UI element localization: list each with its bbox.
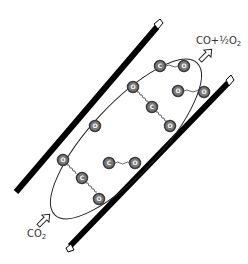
atom-oxygen: O: [128, 82, 139, 93]
atom-oxygen: O: [173, 86, 184, 97]
atom-oxygen: O: [94, 194, 105, 205]
atom-carbon: C: [77, 173, 88, 184]
atom-oxygen: O: [165, 121, 176, 132]
svg-text:O: O: [167, 122, 172, 129]
upper-wall: [16, 19, 163, 192]
output-arrow-icon: [197, 46, 215, 64]
svg-text:O: O: [60, 156, 65, 163]
svg-text:O: O: [201, 88, 206, 95]
svg-text:O: O: [181, 62, 186, 69]
output-label: CO+½O2: [196, 36, 241, 48]
input-label: CO2: [27, 229, 46, 241]
svg-text:C: C: [158, 62, 163, 69]
atom-carbon: C: [147, 102, 158, 113]
atom-oxygen: O: [179, 61, 190, 72]
output-label-subscript: 2: [237, 40, 241, 48]
svg-text:O: O: [92, 122, 97, 129]
input-arrow-icon: [35, 211, 53, 229]
atom-oxygen: O: [199, 87, 210, 98]
svg-text:O: O: [132, 159, 137, 166]
atom-carbon: C: [104, 158, 115, 169]
atom-oxygen: O: [58, 155, 69, 166]
output-label-text: CO+½O: [196, 35, 237, 46]
svg-text:O: O: [130, 83, 135, 90]
atom-carbon: C: [155, 61, 166, 72]
svg-text:C: C: [150, 103, 155, 110]
atom-oxygen: O: [130, 158, 141, 169]
svg-text:O: O: [96, 195, 101, 202]
input-label-subscript: 2: [42, 233, 46, 241]
svg-text:C: C: [80, 174, 85, 181]
svg-text:C: C: [107, 159, 112, 166]
input-label-text: CO: [27, 228, 42, 239]
svg-text:O: O: [175, 87, 180, 94]
atom-oxygen: O: [90, 121, 101, 132]
